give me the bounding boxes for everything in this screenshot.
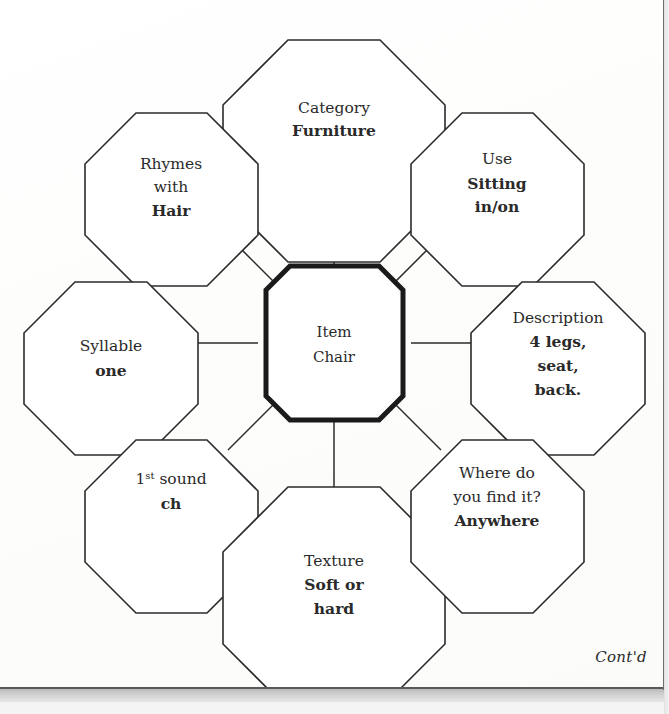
node-description-value-line-3: back. [535,380,581,399]
node-where-value: Anywhere [454,511,540,530]
node-rhymes-label-line-2: with [154,178,188,196]
node-where-label-line-1: Where do [459,464,535,482]
node-texture-value-line-2: hard [314,599,354,618]
node-use-label: Use [482,150,512,168]
continued-note: Cont'd [595,648,647,666]
node-description[interactable]: Description 4 legs, seat, back. [471,282,645,455]
node-syllable[interactable]: Syllable one [24,282,198,455]
node-first-sound-label-superscript: st [145,470,154,481]
node-description-value-line-1: 4 legs, [530,332,587,351]
node-category-value: Furniture [292,121,376,140]
page-edge-right-outer [664,0,669,714]
node-rhymes-outline [85,113,258,286]
node-first-sound-value: ch [161,494,182,513]
node-center-item[interactable]: Item Chair [266,266,403,420]
node-center-value: Chair [313,348,356,366]
node-category-label: Category [298,99,370,117]
page-shadow-band [0,689,669,702]
node-use-value-line-2: in/on [475,197,519,216]
node-texture-value-line-1: Soft or [304,575,364,594]
node-center-outline [266,266,403,420]
node-rhymes-label-line-1: Rhymes [140,155,202,173]
node-first-sound-label-rest: sound [154,470,206,488]
node-texture-label: Texture [304,552,364,570]
node-description-label: Description [512,309,603,327]
node-description-value-line-2: seat, [537,356,578,375]
node-use[interactable]: Use Sitting in/on [411,113,584,286]
node-use-value-line-1: Sitting [467,174,527,193]
node-syllable-value: one [95,361,127,380]
node-rhymes[interactable]: Rhymes with Hair [85,113,258,286]
node-where[interactable]: Where do you find it? Anywhere [411,440,584,613]
node-where-label-line-2: you find it? [452,488,541,506]
octagon-web-diagram: Category Furniture Rhymes with Hair Use … [0,0,669,714]
node-center-label: Item [316,323,351,341]
node-syllable-label: Syllable [80,337,143,355]
page-below-band [0,702,669,714]
scanned-page: Category Furniture Rhymes with Hair Use … [0,0,669,714]
node-first-sound-label-base: 1 [135,470,145,488]
node-rhymes-value: Hair [152,201,192,220]
connector-center-to-where [389,398,441,450]
connector-center-to-first-sound [228,398,280,450]
